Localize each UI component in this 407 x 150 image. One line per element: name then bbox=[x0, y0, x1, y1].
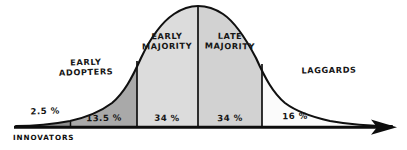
curve-region-fills bbox=[16, 0, 402, 127]
region-laggards-fill bbox=[262, 0, 402, 127]
bell-curve-chart bbox=[0, 0, 407, 150]
region-innovators-fill bbox=[16, 0, 71, 127]
adoption-curve-figure: EARLY ADOPTERS EARLY MAJORITY LATE MAJOR… bbox=[0, 0, 407, 150]
